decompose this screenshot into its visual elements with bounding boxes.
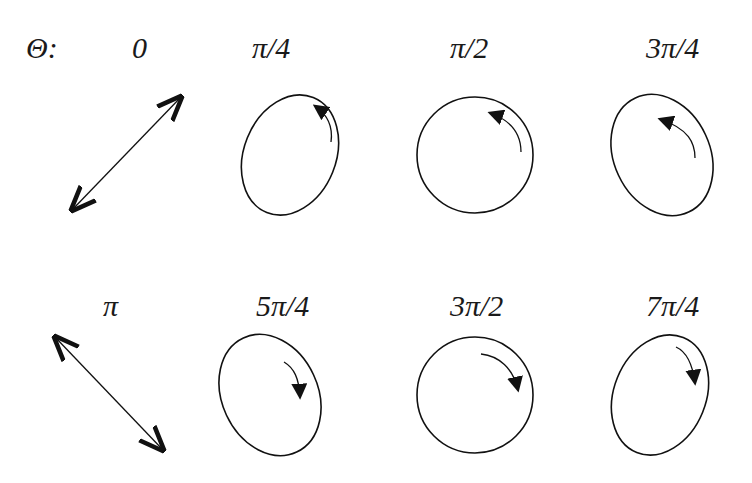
- elliptical-polarization-5pi-4-icon: [200, 318, 340, 473]
- polarization-diagram: Θ: 0 π/4 π/2 3π/4 π 5π/4 3π/2 7π/4: [0, 0, 752, 483]
- phase-label-3pi-2: 3π/2: [449, 289, 503, 322]
- theta-label: Θ:: [26, 31, 58, 64]
- phase-label-0: 0: [132, 31, 147, 64]
- phase-label-7pi-4: 7π/4: [646, 289, 699, 322]
- elliptical-polarization-pi-4-icon: [224, 80, 356, 229]
- phase-label-5pi-4: 5π/4: [256, 289, 309, 322]
- linear-polarization-pi-icon: [55, 337, 163, 450]
- elliptical-polarization-3pi-4-icon: [592, 78, 732, 233]
- circular-polarization-3pi-2-icon: [417, 337, 533, 453]
- elliptical-polarization-7pi-4-icon: [594, 320, 726, 469]
- linear-polarization-0-icon: [72, 97, 181, 210]
- phase-label-pi-4: π/4: [252, 31, 290, 64]
- phase-label-pi-2: π/2: [450, 31, 488, 64]
- circular-polarization-pi-2-icon: [417, 97, 533, 213]
- phase-label-3pi-4: 3π/4: [645, 31, 699, 64]
- phase-label-pi: π: [103, 289, 119, 322]
